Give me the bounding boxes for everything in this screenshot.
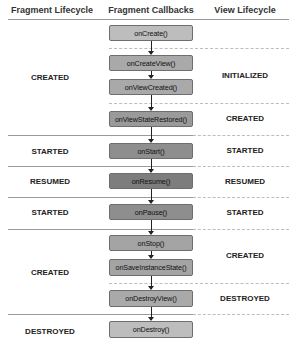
arrow-down-icon: [151, 220, 152, 234]
header-divider: [8, 19, 289, 20]
arrow-down-icon: [151, 41, 152, 54]
fragment-state-destroyed: DESTROYED: [25, 327, 75, 336]
header-fragment-callbacks: Fragment Callbacks: [105, 5, 197, 15]
view-divider: [109, 103, 289, 104]
fragment-state-started: STARTED: [31, 147, 68, 156]
view-divider: [109, 283, 289, 284]
fragment-state-started: STARTED: [31, 208, 68, 217]
view-state-started: STARTED: [226, 208, 263, 217]
callback-on-create: onCreate(): [109, 25, 193, 41]
fragment-divider: [8, 166, 193, 167]
fragment-state-created: CREATED: [31, 73, 69, 82]
callback-on-start: onStart(): [109, 143, 193, 159]
view-state-resumed: RESUMED: [225, 177, 265, 186]
view-divider: [193, 135, 289, 136]
view-state-created: CREATED: [226, 114, 264, 123]
arrow-down-icon: [151, 71, 152, 78]
arrow-down-icon: [151, 159, 152, 172]
view-divider: [193, 197, 289, 198]
arrow-down-icon: [151, 276, 152, 289]
callback-on-pause: onPause(): [109, 204, 193, 220]
callback-on-destroy-view: onDestroyView(): [109, 290, 193, 307]
arrow-down-icon: [151, 307, 152, 320]
callback-on-destroy: onDestroy(): [109, 321, 193, 338]
callback-on-resume: onResume(): [109, 173, 193, 189]
fragment-divider: [8, 197, 193, 198]
fragment-divider: [8, 229, 193, 230]
fragment-state-created: CREATED: [31, 268, 69, 277]
callback-on-view-state-restored: onViewStateRestored(): [109, 111, 193, 127]
callback-on-create-view: onCreateView(): [109, 55, 193, 71]
callback-on-save-instance-state: onSaveInstanceState(): [109, 259, 193, 276]
fragment-state-resumed: RESUMED: [30, 177, 70, 186]
fragment-divider: [8, 135, 193, 136]
fragment-divider: [8, 314, 193, 315]
view-divider: [109, 48, 289, 49]
arrow-down-icon: [151, 127, 152, 142]
callback-on-view-created: onViewCreated(): [109, 79, 193, 95]
arrow-down-icon: [151, 251, 152, 258]
view-state-created: CREATED: [226, 251, 264, 260]
arrow-down-icon: [151, 189, 152, 203]
callback-on-stop: onStop(): [109, 235, 193, 251]
view-divider: [193, 314, 289, 315]
view-state-started: STARTED: [226, 146, 263, 155]
view-state-destroyed: DESTROYED: [220, 294, 270, 303]
arrow-down-icon: [151, 95, 152, 110]
header-view-lifecycle: View Lifecycle: [200, 5, 290, 15]
view-divider: [193, 229, 289, 230]
view-state-initialized: INITIALIZED: [222, 71, 268, 80]
header-fragment-lifecycle: Fragment Lifecycle: [4, 5, 100, 15]
view-divider: [193, 166, 289, 167]
